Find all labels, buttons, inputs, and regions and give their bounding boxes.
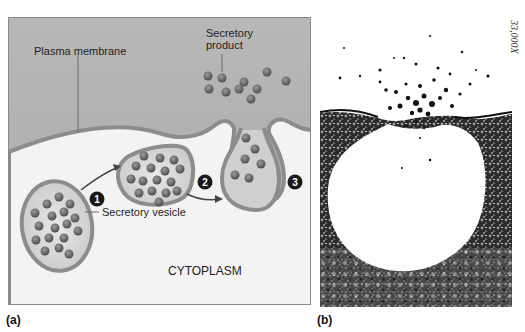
secretory-vesicle-label: Secretory vesicle	[102, 206, 186, 218]
svg-text:1: 1	[94, 194, 100, 205]
panel-b-caption: (b)	[317, 313, 332, 327]
diagram-panel-a: 1 2 3 Plasma membrane Secretory product …	[8, 17, 311, 305]
plasma-membrane-label: Plasma membrane	[34, 45, 126, 57]
step-3-badge: 3	[288, 175, 303, 190]
panel-a-caption: (a)	[6, 313, 21, 327]
svg-text:2: 2	[202, 177, 208, 188]
magnification-label: 33,000X	[509, 20, 520, 54]
micrograph-panel-b	[320, 18, 512, 307]
secretory-product-label-line2: product	[206, 39, 243, 51]
svg-text:3: 3	[292, 177, 298, 188]
secretory-product-label-line1: Secretory	[206, 27, 253, 39]
step-2-badge: 2	[198, 175, 213, 190]
step-1-badge: 1	[90, 192, 105, 207]
cytoplasm-label: CYTOPLASM	[168, 265, 242, 277]
electron-micrograph	[320, 18, 512, 307]
exocytosis-diagram: 1 2 3	[9, 18, 311, 305]
